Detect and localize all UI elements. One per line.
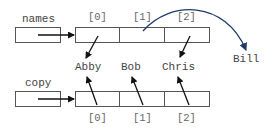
names-label: names bbox=[22, 13, 55, 25]
names-2-arrow bbox=[180, 36, 190, 57]
string-bob: Bob bbox=[121, 61, 141, 73]
bottom-index-2: [2] bbox=[177, 112, 196, 124]
string-abby: Abby bbox=[75, 61, 102, 73]
top-index-2: [2] bbox=[177, 11, 196, 23]
top-index-0: [0] bbox=[88, 11, 107, 23]
string-bill: Bill bbox=[233, 53, 259, 65]
top-index-1: [1] bbox=[133, 11, 152, 23]
bottom-index-1: [1] bbox=[133, 112, 152, 124]
names-0-arrow bbox=[86, 36, 98, 58]
string-chris: Chris bbox=[162, 61, 195, 73]
copy-label: copy bbox=[25, 77, 52, 89]
bottom-index-0: [0] bbox=[88, 112, 107, 124]
array-reference-diagram: names [0] [1] [2] Abby Bob Chris Bill co… bbox=[0, 0, 274, 130]
